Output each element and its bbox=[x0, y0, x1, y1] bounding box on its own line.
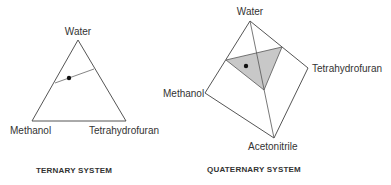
ternary-label-water: Water bbox=[65, 26, 92, 37]
quaternary-diagram: Water Methanol Tetrahydrofuran Acetonitr… bbox=[163, 6, 382, 174]
quaternary-label-acetonitrile: Acetonitrile bbox=[248, 141, 298, 152]
diagram-canvas: Water Methanol Tetrahydrofuran TERNARY S… bbox=[0, 0, 391, 185]
ternary-label-methanol: Methanol bbox=[10, 125, 51, 136]
ternary-triangle bbox=[32, 40, 126, 121]
quaternary-label-water: Water bbox=[237, 6, 264, 17]
ternary-label-thf: Tetrahydrofuran bbox=[89, 125, 159, 136]
ternary-caption: TERNARY SYSTEM bbox=[36, 166, 112, 175]
quaternary-shaded-plane bbox=[226, 47, 282, 90]
ternary-diagram: Water Methanol Tetrahydrofuran TERNARY S… bbox=[10, 26, 159, 175]
quaternary-caption: QUATERNARY SYSTEM bbox=[207, 165, 301, 174]
quaternary-label-methanol: Methanol bbox=[163, 88, 204, 99]
ternary-composition-dot bbox=[67, 76, 71, 80]
quaternary-composition-dot bbox=[244, 64, 248, 68]
quaternary-label-thf: Tetrahydrofuran bbox=[312, 63, 382, 74]
